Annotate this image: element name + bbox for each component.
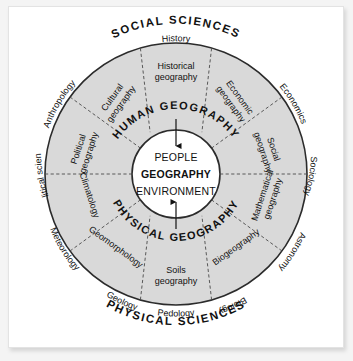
sector-historical-geography[interactable]: Historical geography xyxy=(155,61,198,82)
sector-label-historical-2: geography xyxy=(155,72,198,82)
sector-label-soils-1: Soils xyxy=(166,265,186,275)
core-environment-label: ENVIRONMENT xyxy=(136,185,216,197)
core-people-label: PEOPLE xyxy=(154,151,197,163)
sector-label-soils-2: geography xyxy=(155,276,198,286)
figure-root: PEOPLE GEOGRAPHY ENVIRONMENT HUMAN GEOGR… xyxy=(0,0,353,361)
paper-sheet: PEOPLE GEOGRAPHY ENVIRONMENT HUMAN GEOGR… xyxy=(8,6,344,348)
discipline-history: History xyxy=(161,33,191,44)
core-geography-label: GEOGRAPHY xyxy=(141,168,211,180)
sector-label-historical-1: Historical xyxy=(157,61,194,71)
discipline-political-science: Political science xyxy=(9,7,50,199)
geography-wheel-diagram: PEOPLE GEOGRAPHY ENVIRONMENT HUMAN GEOGR… xyxy=(9,7,343,347)
